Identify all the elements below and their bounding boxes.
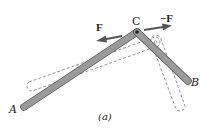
label-force-f: F (96, 22, 103, 33)
bar-ac (24, 32, 137, 107)
figure-caption: (a) (98, 112, 112, 122)
label-force-neg-f: −F (160, 13, 173, 24)
label-point-c: C (132, 16, 140, 27)
pin-c-icon (135, 30, 139, 34)
force-arrow-right-icon (144, 24, 172, 31)
label-point-b: B (191, 77, 199, 88)
label-point-a: A (9, 104, 17, 115)
linkage-diagram: A B C F −F (a) (0, 0, 206, 134)
